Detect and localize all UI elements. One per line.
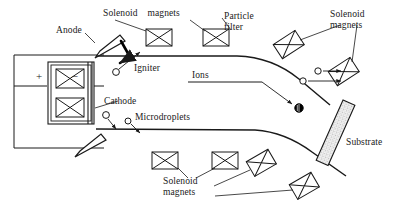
leader-solenoid-bottom-4: [215, 190, 293, 196]
microdroplet-1: [103, 112, 116, 129]
leader-solenoid-top-2: [190, 20, 205, 31]
label-anode: Anode: [56, 25, 82, 36]
label-ions: Ions: [192, 70, 209, 81]
solenoid-bottom-wall-2: [212, 152, 238, 169]
cathode-electrode: [75, 134, 106, 157]
leader-solenoid-bottom-2: [196, 168, 215, 178]
label-igniter: Igniter: [134, 63, 160, 74]
label-battery-positive: +: [36, 71, 42, 82]
solenoid-lower-curve-1: [246, 149, 276, 176]
leader-solenoid-top-1: [115, 20, 146, 31]
solenoid-bottom-wall-1: [152, 152, 178, 169]
solenoid-lower-curve-2: [289, 172, 319, 199]
igniter-arrow: [120, 41, 130, 63]
solenoid-upper-curve-1: [273, 30, 304, 58]
anode-electrode: [95, 35, 125, 58]
label-particle-filter: Particle filter: [224, 11, 254, 32]
label-solenoid-magnets-right: Solenoid magnets: [330, 9, 365, 30]
solenoid-upper-curve-2: [328, 57, 359, 85]
solenoid-top-wall-1: [146, 29, 172, 46]
leader-anode: [85, 33, 95, 43]
label-battery-negative: –: [72, 70, 78, 81]
plasma-source-diagram: Solenoid magnets Anode Igniter Particle …: [0, 0, 398, 205]
substrate-plate: [316, 100, 355, 166]
label-substrate: Substrate: [346, 137, 382, 148]
label-solenoid-magnets-bottom: Solenoid magnets: [163, 176, 198, 197]
leader-solenoid-upper-2: [352, 25, 357, 62]
label-solenoid-magnets-top: Solenoid magnets: [103, 8, 180, 19]
label-cathode: Cathode: [104, 96, 136, 107]
label-microdroplets: Microdroplets: [135, 112, 190, 123]
leader-ions: [262, 82, 292, 104]
source-chamber-solenoid-lower: [56, 98, 84, 117]
source-chamber-solenoid-upper: [56, 69, 84, 88]
leader-solenoid-bottom-3: [214, 170, 250, 186]
